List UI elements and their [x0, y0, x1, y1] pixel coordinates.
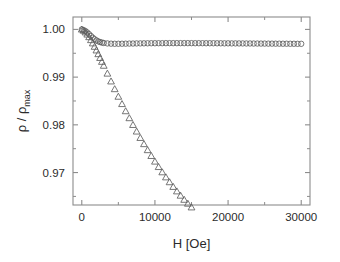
figure-container: 01000020000300000.970.980.991.00 H [Oe]ρ…: [0, 0, 340, 262]
y-tick-label: 0.98: [43, 119, 65, 131]
x-tick-label: 20000: [212, 211, 244, 223]
x-tick-label: 0: [79, 211, 85, 223]
y-tick-label: 1.00: [43, 23, 65, 35]
x-tick-label: 30000: [285, 211, 317, 223]
y-axis-title-subscript: max: [22, 89, 32, 107]
x-tick-label: 10000: [139, 211, 171, 223]
y-tick-label: 0.97: [43, 167, 65, 179]
scatter-plot: 01000020000300000.970.980.991.00 H [Oe]ρ…: [0, 0, 340, 262]
y-tick-label: 0.99: [43, 71, 65, 83]
x-axis-title: H [Oe]: [173, 236, 211, 251]
